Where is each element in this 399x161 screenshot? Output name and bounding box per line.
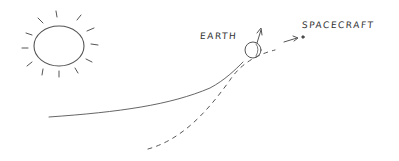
sun-icon	[22, 11, 98, 77]
earth-label: EARTH	[200, 31, 238, 41]
earth-orbit	[49, 62, 243, 117]
earth-icon	[245, 28, 262, 58]
spacecraft-trajectory	[148, 50, 275, 149]
spacecraft-icon	[302, 36, 304, 38]
spacecraft-label: SPACECRAFT	[302, 20, 375, 30]
diagram-canvas: EARTH SPACECRAFT	[0, 0, 399, 161]
spacecraft-velocity-arrow	[284, 36, 298, 42]
